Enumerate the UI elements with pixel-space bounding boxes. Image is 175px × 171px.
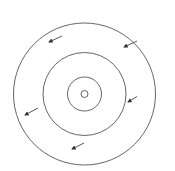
circles-group [14, 23, 156, 165]
concentric-circles-diagram [0, 0, 175, 171]
arrow-5-icon [72, 143, 84, 149]
arrow-4-icon [25, 108, 38, 115]
arrow-3-icon [128, 97, 137, 103]
core-circle [81, 91, 88, 98]
middle-circle [43, 53, 126, 136]
arrow-1-icon [49, 36, 62, 42]
inner-circle [68, 77, 102, 111]
outer-circle [14, 23, 156, 165]
